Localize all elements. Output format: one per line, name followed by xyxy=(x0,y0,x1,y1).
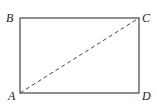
vertex-label-a: A xyxy=(7,89,16,103)
vertex-label-c: C xyxy=(142,11,151,25)
rectangle-diagram: B C A D xyxy=(0,0,157,104)
vertex-label-d: D xyxy=(141,89,151,103)
diagonal-ac xyxy=(20,18,139,93)
vertex-label-b: B xyxy=(6,11,14,25)
